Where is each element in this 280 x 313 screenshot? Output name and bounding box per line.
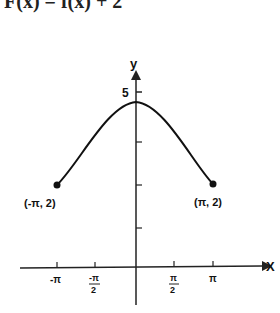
- y-axis-label: y: [130, 56, 138, 71]
- x-tick-neg-pi: -π: [50, 274, 61, 285]
- left-point-label: (-π, 2): [24, 197, 56, 209]
- x-tick-pi-half-den: 2: [170, 285, 175, 295]
- curve: [57, 102, 213, 185]
- x-tick-pi: π: [209, 273, 217, 284]
- x-tick-neg-pi-half-den: 2: [91, 285, 96, 295]
- y-axis-arrow-icon: [131, 70, 141, 80]
- x-axis: [20, 266, 262, 268]
- x-tick-pi-half-num: π: [170, 273, 177, 283]
- x-tick-neg-pi-half-num: -π: [89, 273, 99, 283]
- graph: y 5 (-π, 2) (π, 2) X -π -π 2 π 2 π: [0, 0, 280, 313]
- x-axis-label: X: [266, 259, 275, 274]
- right-endpoint: [210, 181, 217, 188]
- right-point-label: (π, 2): [194, 196, 222, 208]
- y-tick-5: 5: [122, 86, 129, 100]
- left-endpoint: [54, 182, 61, 189]
